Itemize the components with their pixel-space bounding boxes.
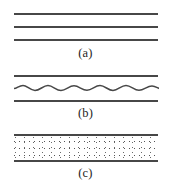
panel-b-line-bottom: [14, 100, 158, 102]
panel-b-label: (b): [0, 106, 171, 120]
panel-c-line-top: [14, 134, 158, 136]
panel-a-label: (a): [0, 46, 171, 60]
panel-c-line-bottom: [14, 160, 158, 162]
panel-a-line-2: [14, 26, 158, 28]
panel-b: (b): [0, 62, 171, 123]
panel-a-line-3: [14, 39, 158, 41]
panel-b-wavy-line: [14, 81, 159, 95]
panel-a: (a): [0, 0, 171, 62]
panel-a-line-1: [14, 13, 158, 15]
panel-c-label: (c): [0, 166, 171, 180]
panel-c-stipple-band: [14, 136, 158, 160]
figure-container: (a) (b) (c): [0, 0, 171, 184]
panel-c: (c): [0, 123, 171, 184]
panel-b-line-top: [14, 75, 158, 77]
